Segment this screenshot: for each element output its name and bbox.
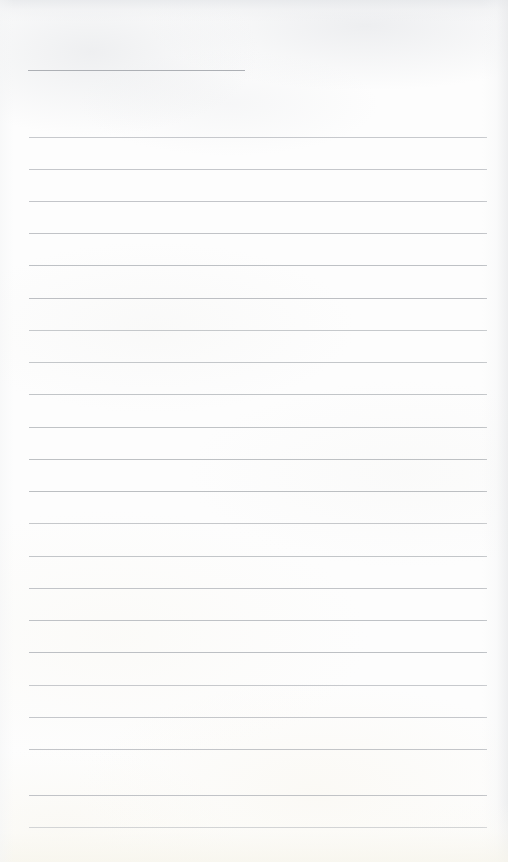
ruled-line[interactable] [29,620,487,621]
ruled-line[interactable] [29,330,487,331]
ruled-line[interactable] [29,652,487,653]
ruled-line[interactable] [29,427,487,428]
ruled-line[interactable] [29,749,487,750]
ruled-writing-area[interactable] [0,0,508,862]
ruled-line[interactable] [29,459,487,460]
title-underline [28,70,245,71]
ruled-line[interactable] [29,556,487,557]
ruled-line[interactable] [29,298,487,299]
ruled-line[interactable] [29,201,487,202]
ruled-line[interactable] [29,233,487,234]
ruled-line[interactable] [29,169,487,170]
ruled-line[interactable] [29,795,487,796]
ruled-line[interactable] [29,827,487,828]
ruled-line[interactable] [29,523,487,524]
ruled-line[interactable] [29,394,487,395]
ruled-line[interactable] [29,685,487,686]
ruled-line[interactable] [29,491,487,492]
ruled-line[interactable] [29,265,487,266]
ruled-line[interactable] [29,588,487,589]
scanned-page [0,0,508,862]
ruled-line[interactable] [29,137,487,138]
ruled-line[interactable] [29,362,487,363]
ruled-line[interactable] [29,717,487,718]
